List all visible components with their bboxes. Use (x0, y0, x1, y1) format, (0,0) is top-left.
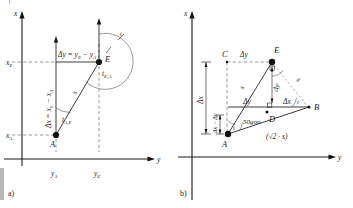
panel-a-north-arrowhead-a (54, 36, 58, 43)
panel-b-tag: b) (180, 189, 187, 198)
panel-a-tick-label-ya: yA (50, 169, 58, 179)
panel-a-tick-label-xa: xA (5, 131, 13, 141)
panel-a-bearing-arc-ae (56, 108, 71, 113)
panel-b-dy-arrowhead-bottom (271, 99, 274, 104)
panel-b-point-b (308, 106, 311, 109)
panel-a-dy-part2: − y (81, 50, 94, 59)
panel-a-y-axis-label: y (156, 155, 161, 164)
panel-a-point-a-label: A (49, 139, 56, 149)
panel-a-point-a (53, 132, 59, 138)
diagram-canvas: x y (0, 0, 353, 208)
panel-b-s-eb-label: s (294, 76, 303, 84)
panel-a: x y (4, 9, 161, 198)
panel-a-north-arrows (54, 18, 101, 135)
panel-b-point-a (225, 131, 231, 137)
panel-b-hypotenuse-label: (√2 · s) (266, 132, 288, 141)
technical-diagram: x y (0, 0, 353, 208)
page-edge-mark-left (0, 168, 4, 200)
panel-a-tag: a) (8, 189, 15, 198)
panel-b-point-b-label: B (314, 102, 319, 112)
panel-b-x-axis-label: x (183, 9, 188, 18)
panel-a-y-axis: y (4, 155, 161, 164)
svg-text:Δy = yE − yA: Δy = yE − yA (57, 50, 97, 60)
panel-b-point-d-label: D (268, 114, 276, 124)
panel-b-x-axis: x (183, 9, 195, 200)
panel-a-north-arrowhead-e (97, 18, 101, 25)
panel-b-angle-arc-at-b (292, 98, 297, 107)
panel-b-right-angle-at-d (268, 103, 272, 107)
panel-b-s-ae-label: s (237, 84, 246, 91)
panel-a-line-ae (56, 62, 99, 135)
panel-a-dy-part1: Δy = y (57, 50, 79, 59)
panel-a-point-e-label: E (104, 54, 111, 64)
panel-a-bearing-ea-label: tE,A (102, 69, 112, 80)
panel-b-point-a-label: A (221, 139, 228, 149)
panel-a-x-axis-label: x (13, 9, 18, 18)
panel-a-delta-x-label: Δx = xE − xA (44, 89, 54, 129)
svg-text:Δx = xE − xA: Δx = xE − xA (44, 89, 54, 129)
panel-b-delta-x-minus-delta-y-label: Δx − Δy (212, 113, 218, 134)
panel-a-x-axis: x (13, 9, 25, 166)
panel-a-arc-tick-inner (106, 47, 111, 53)
panel-a-dx-part1: Δx = x (44, 107, 53, 129)
panel-a-tick-label-ye: yE (93, 169, 100, 179)
panel-b-angle-t-at-b-label: t (297, 99, 299, 105)
panel-b-point-e (269, 59, 275, 65)
panel-a-dy-sub2: A (92, 55, 97, 60)
panel-b-point-c-label: C (222, 49, 228, 59)
panel-b-delta-x-left-label: Δx (196, 96, 205, 105)
panel-a-dx-sub2: A (49, 89, 54, 94)
panel-b-delta-y-lower-label: Δy (242, 97, 251, 106)
panel-b-angle-arc-at-e (272, 70, 283, 76)
panel-a-distance-label: s (70, 89, 79, 96)
panel-b-point-e-label: E (273, 45, 280, 55)
panel-b-y-axis-label: y (337, 153, 342, 162)
page-edge-mark-top (9, 0, 10, 4)
panel-a-tick-label-xe: xE (5, 58, 12, 68)
panel-b-point-c (226, 61, 228, 63)
panel-a-point-e (96, 59, 102, 65)
panel-b-delta-y-top-label: Δy (239, 50, 248, 59)
panel-b-angle-gon-label: 50gon (243, 118, 261, 126)
panel-b: x y (178, 9, 342, 200)
panel-b-delta-x-right-label: Δx (282, 97, 291, 106)
panel-b-angle-t-at-a-label: t (233, 125, 235, 131)
panel-b-y-axis: y (178, 153, 342, 162)
panel-a-dx-part2: − x (44, 92, 53, 105)
panel-a-delta-y-label: Δy = yE − yA (57, 50, 97, 60)
panel-b-dy-arrowhead-top (271, 67, 274, 72)
